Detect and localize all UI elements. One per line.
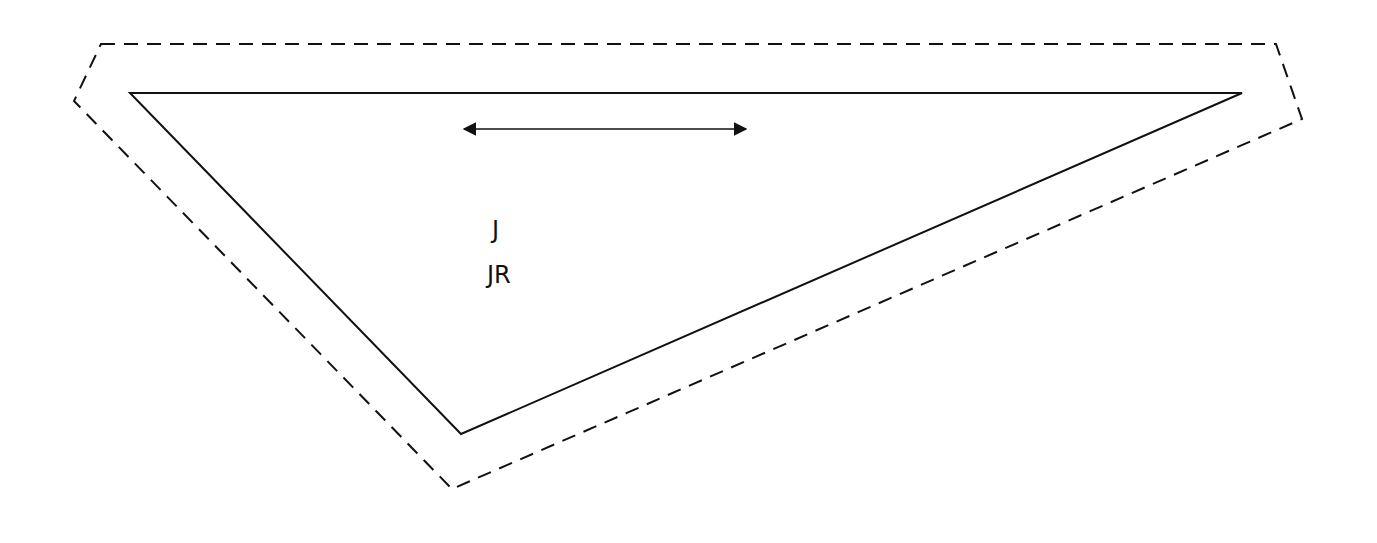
outer-dashed-boundary bbox=[74, 44, 1302, 489]
inner-triangle bbox=[130, 93, 1242, 434]
label-j: J bbox=[492, 218, 499, 242]
diagram-canvas bbox=[0, 0, 1377, 543]
label-jr: JR bbox=[487, 263, 511, 287]
